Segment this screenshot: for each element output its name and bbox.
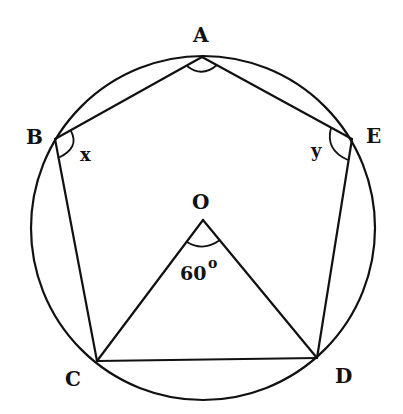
label-c: C [65,367,81,391]
side-bc [55,139,97,361]
label-b: B [26,125,43,149]
label-e: E [366,124,381,148]
side-ed [317,139,352,358]
side-ab [55,57,202,139]
circle-pentagon-diagram: A B E C D O x y 60 o [0,0,403,414]
label-angle-cod: 60 [180,262,206,284]
label-angle-y: y [310,140,322,161]
label-a: A [192,23,209,47]
label-angle-x: x [80,144,91,165]
angle-arc-a [187,65,217,72]
label-o: O [192,190,209,214]
side-ae [202,57,352,139]
label-degree-symbol: o [208,255,217,271]
side-cd [97,358,317,361]
angle-arc-o [187,240,220,247]
circumcircle [31,56,375,400]
radius-oc [97,220,203,361]
label-d: D [335,364,352,388]
